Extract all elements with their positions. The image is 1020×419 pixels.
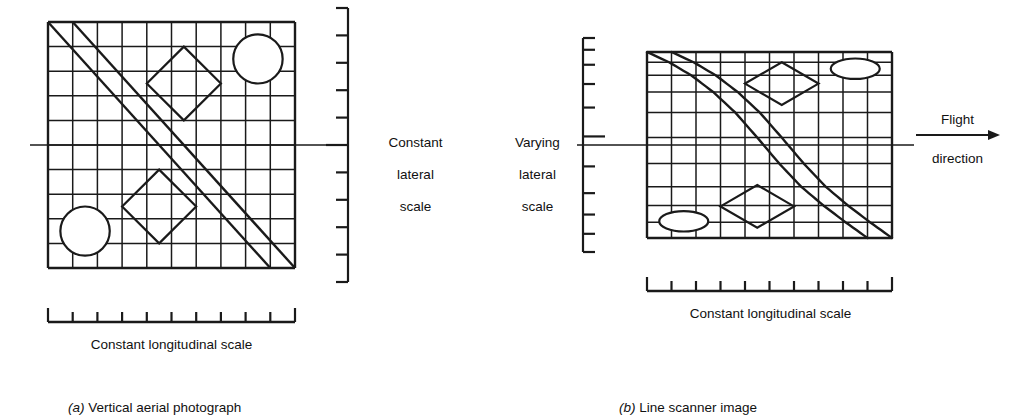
panel-b-longitudinal-scale-label: Constant longitudinal scale (648, 306, 893, 322)
panel-a-caption-marker: (a) (68, 400, 85, 415)
label-line: lateral (519, 167, 556, 182)
panel-a-circle-top-right (233, 34, 282, 83)
label-line: scale (522, 199, 554, 214)
label-line: lateral (397, 167, 434, 182)
panel-a-longitudinal-scale-label: Constant longitudinal scale (48, 337, 295, 353)
flight-direction-label-below: direction (910, 151, 1005, 167)
flight-direction-label-above: Flight (910, 112, 1005, 128)
panel-b-longitudinal-ruler (647, 277, 892, 291)
label-line: Constant (388, 135, 442, 150)
panel-b-caption-text: Line scanner image (636, 400, 758, 415)
panel-a-caption: (a) Vertical aerial photograph (53, 384, 241, 419)
panel-a-lateral-ruler (326, 8, 348, 282)
panel-a-circle-bottom-left (60, 207, 109, 256)
panel-a-caption-text: Vertical aerial photograph (85, 400, 242, 415)
panel-b-ellipse-bottom-left (659, 211, 708, 231)
panel-a-lateral-scale-label: Constant lateral scale (358, 119, 458, 231)
panel-b-caption: (b) Line scanner image (604, 384, 757, 419)
flight-direction-arrow-head (988, 130, 1000, 140)
panel-a-diamond-upper (147, 47, 221, 121)
panel-b-ellipse-top-right (831, 59, 880, 79)
panel-b-lateral-scale-label: Varying lateral scale (485, 119, 575, 231)
panel-b-diamond-upper (745, 62, 819, 105)
label-line: Varying (515, 135, 560, 150)
panel-b-caption-marker: (b) (619, 400, 636, 415)
panel-a-longitudinal-ruler (48, 308, 295, 322)
panel-a-diamond-lower (122, 170, 196, 244)
label-line: scale (400, 199, 432, 214)
panel-b-diamond-lower (721, 185, 795, 228)
